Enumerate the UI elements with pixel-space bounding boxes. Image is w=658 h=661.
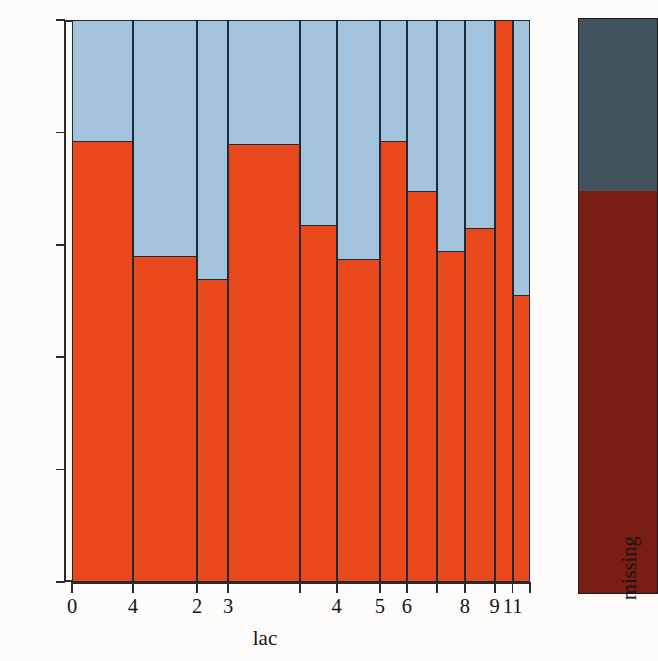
x-axis-tick [464,582,466,593]
x-axis: 04234568911 lac [0,582,639,661]
bar-segment-upper [466,21,494,228]
x-axis-spine [72,582,530,584]
x-axis-tick [529,582,531,593]
bar-segment-upper [408,21,436,191]
x-axis-tick-label: 9 [490,596,500,617]
legend-key-upper [579,19,657,191]
bar-segment-lower [73,141,132,581]
y-axis-tick [56,244,65,246]
x-axis-tick [379,582,381,593]
bar-segment-lower [466,228,494,581]
y-axis: 1.00.80.60.40.20.0 [0,0,72,661]
x-axis-tick [512,582,514,593]
plot-area [72,20,530,582]
bar-segment-upper [134,21,196,256]
bar-segment-lower [229,144,299,581]
x-axis-tick-label: 0 [67,596,77,617]
x-axis-tick [436,582,438,593]
spine-bar[interactable] [513,20,530,582]
legend-key-strip [578,18,658,594]
x-axis-tick-label: 8 [460,596,470,617]
bar-segment-lower [338,259,379,581]
bar-segment-upper [381,21,406,141]
bar-segment-upper [198,21,227,279]
x-axis-tick [227,582,229,593]
bar-segment-lower [496,21,512,581]
spine-bar[interactable] [380,20,407,582]
bar-segment-lower [198,279,227,581]
bar-segment-lower [408,191,436,581]
spine-bar[interactable] [133,20,197,582]
x-axis-title: lac [0,626,530,651]
x-axis-tick-label: 11 [503,596,523,617]
y-axis-spine [64,20,66,582]
bar-segment-lower [514,295,529,581]
x-axis-tick [336,582,338,593]
x-axis-tick-label: 6 [402,596,412,617]
spine-bar[interactable] [300,20,337,582]
x-axis-tick-label: 2 [192,596,202,617]
x-axis-tick [132,582,134,593]
x-axis-tick [71,582,73,593]
bar-segment-lower [438,251,464,581]
y-axis-tick [56,132,65,134]
spine-bar[interactable] [437,20,465,582]
bar-segment-upper [514,21,529,295]
y-axis-tick [56,469,65,471]
y-axis-tick [56,356,65,358]
x-axis-tick-label: 4 [332,596,342,617]
x-axis-tick-label: 3 [223,596,233,617]
spine-bar[interactable] [465,20,495,582]
bar-segment-lower [301,225,336,581]
spine-bar[interactable] [72,20,133,582]
bar-segment-lower [381,141,406,581]
spine-bar[interactable] [197,20,228,582]
x-axis-tick [299,582,301,593]
x-axis-tick-label: 5 [375,596,385,617]
bar-segment-upper [229,21,299,144]
bar-segment-upper [338,21,379,259]
x-axis-tick-label: 4 [128,596,138,617]
x-axis-tick [196,582,198,593]
bar-segment-lower [134,256,196,581]
spine-bar[interactable] [495,20,513,582]
legend-label-missing: missing [618,536,641,600]
spine-bar[interactable] [337,20,380,582]
spine-bar[interactable] [407,20,437,582]
spine-bar[interactable] [228,20,300,582]
legend-key-lower [579,191,657,593]
bar-segment-upper [301,21,336,225]
y-axis-tick [56,19,65,21]
bar-segment-upper [438,21,464,251]
bar-segment-upper [73,21,132,141]
x-axis-tick [406,582,408,593]
x-axis-tick [494,582,496,593]
